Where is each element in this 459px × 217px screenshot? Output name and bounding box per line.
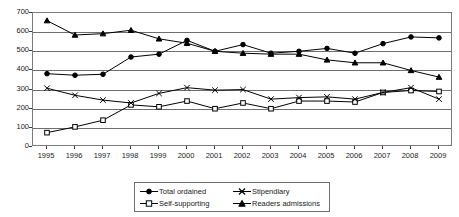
data-point [44,18,50,23]
data-point [269,106,274,111]
data-point [157,52,162,57]
data-point [352,60,358,65]
data-point [128,27,134,32]
x-tick-mark [298,146,299,149]
open-square-icon [139,198,159,209]
x-tick-label: 2004 [283,151,313,160]
x-tick-label: 2005 [311,151,341,160]
x-tick-mark [270,146,271,149]
data-point [157,105,162,110]
y-axis-labels: 0100200300400500600700 [0,12,29,146]
x-tick-mark [158,146,159,149]
data-point [213,106,218,111]
data-point [45,130,50,135]
plot-inner [33,13,451,145]
legend-label: Stipendiary [252,187,290,196]
chart-legend: Total ordained Stipendiary Self-supporti… [134,182,330,212]
filled-circle-icon [139,186,159,197]
y-tick-label: 500 [3,46,29,54]
data-point [73,73,78,78]
x-tick-mark [74,146,75,149]
plot-area [32,12,452,146]
legend-row: Self-supporting Readers admissions [139,197,325,209]
line-chart: 0100200300400500600700 19951996199719981… [0,0,459,217]
data-point [240,50,246,55]
y-tick-label: 100 [3,123,29,131]
series-self-supporting [45,88,442,135]
data-point [129,55,134,60]
data-point [72,32,78,37]
x-tick-mark [130,146,131,149]
series-total-ordained [45,35,442,78]
x-tick-mark [102,146,103,149]
x-tick-label: 1995 [31,151,61,160]
x-tick-label: 2001 [199,151,229,160]
x-tick-mark [438,146,439,149]
y-tick-label: 0 [3,142,29,150]
x-tick-label: 2007 [367,151,397,160]
legend-label: Readers admissions [252,199,320,208]
data-point [156,36,162,41]
data-point [100,31,106,36]
y-tick-label: 300 [3,85,29,93]
cross-x-icon [232,186,252,197]
x-tick-mark [186,146,187,149]
legend-label: Self-supporting [159,199,209,208]
data-point [380,60,386,65]
data-point [185,99,190,104]
x-tick-label: 2006 [339,151,369,160]
x-tick-label: 1996 [59,151,89,160]
data-point [241,42,246,47]
data-point [73,125,78,130]
data-point [409,35,414,40]
series-layer [33,13,451,145]
data-point [408,68,414,73]
data-point [353,51,358,56]
legend-item-self-supporting: Self-supporting [139,197,232,209]
filled-triangle-icon [232,198,252,209]
data-point [212,48,218,53]
x-tick-mark [46,146,47,149]
legend-label: Total ordained [159,187,206,196]
x-tick-mark [410,146,411,149]
x-tick-label: 2000 [171,151,201,160]
legend-item-total-ordained: Total ordained [139,185,232,197]
y-tick-label: 200 [3,104,29,112]
data-point [101,72,106,77]
x-tick-label: 2009 [423,151,453,160]
data-point [325,46,330,51]
x-tick-label: 1998 [115,151,145,160]
data-point [381,41,386,46]
x-tick-label: 2008 [395,151,425,160]
legend-item-stipendiary: Stipendiary [232,185,325,197]
x-tick-mark [326,146,327,149]
data-point [437,36,442,41]
y-tick-label: 700 [3,8,29,16]
y-tick-label: 400 [3,65,29,73]
x-tick-mark [354,146,355,149]
x-tick-label: 1999 [143,151,173,160]
data-point [437,89,442,94]
x-tick-mark [242,146,243,149]
x-tick-mark [214,146,215,149]
data-point [45,71,50,76]
data-point [241,101,246,106]
series-readers-admissions [44,18,442,79]
x-tick-label: 1997 [87,151,117,160]
data-point [101,118,106,123]
data-point [436,74,442,79]
x-axis-labels: 1995199619971998199920002001200220032004… [32,146,452,168]
data-point [436,96,442,102]
y-tick-label: 600 [3,27,29,35]
data-point [324,57,330,62]
x-tick-label: 2003 [255,151,285,160]
legend-row: Total ordained Stipendiary [139,185,325,197]
legend-item-readers-admissions: Readers admissions [232,197,325,209]
x-tick-mark [382,146,383,149]
data-point [325,99,330,104]
x-tick-label: 2002 [227,151,257,160]
